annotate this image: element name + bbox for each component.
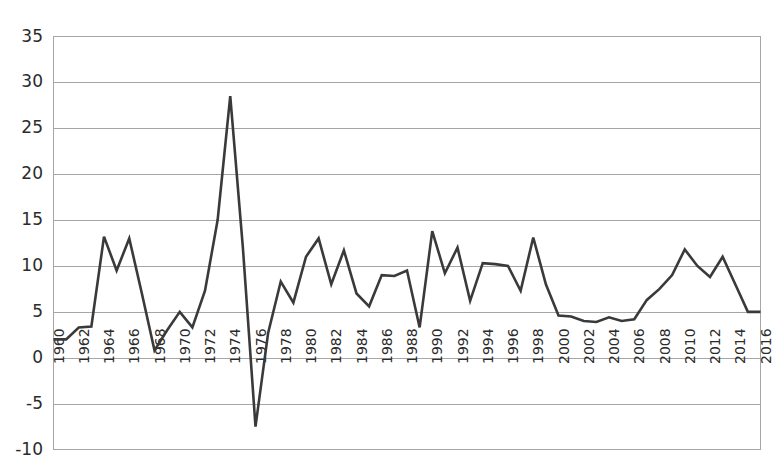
x-tick-label: 1962 xyxy=(76,328,92,364)
chart-background xyxy=(0,0,782,469)
x-tick-label: 1980 xyxy=(303,328,319,364)
y-tick-label: 15 xyxy=(21,209,43,229)
y-tick-label: 25 xyxy=(21,117,43,137)
x-tick-label: 2002 xyxy=(581,328,597,364)
x-tick-label: 2012 xyxy=(707,328,723,364)
x-tick-label: 1994 xyxy=(480,328,496,364)
x-tick-label: 1964 xyxy=(101,328,117,364)
x-tick-label: 1972 xyxy=(202,328,218,364)
chart-container: 35302520151050-5-10 19601962196419661968… xyxy=(0,0,782,469)
x-tick-label: 1984 xyxy=(354,328,370,364)
x-tick-label: 2016 xyxy=(758,328,774,364)
y-tick-label: -10 xyxy=(15,439,43,459)
x-tick-label: 2010 xyxy=(682,328,698,364)
x-tick-label: 2014 xyxy=(732,328,748,364)
x-tick-label: 1974 xyxy=(227,328,243,364)
x-tick-label: 2008 xyxy=(657,328,673,364)
y-tick-label: 10 xyxy=(21,255,43,275)
x-tick-label: 1988 xyxy=(404,328,420,364)
x-tick-label: 1990 xyxy=(429,328,445,364)
x-tick-label: 1996 xyxy=(505,328,521,364)
x-tick-label: 1960 xyxy=(51,328,67,364)
x-tick-label: 1986 xyxy=(379,328,395,364)
x-tick-label: 1982 xyxy=(328,328,344,364)
x-tick-label: 1970 xyxy=(177,328,193,364)
x-tick-label: 2004 xyxy=(606,328,622,364)
y-tick-label: 20 xyxy=(21,163,43,183)
x-tick-label: 1992 xyxy=(455,328,471,364)
y-tick-label: 35 xyxy=(21,26,43,46)
x-tick-label: 2006 xyxy=(631,328,647,364)
x-tick-label: 2000 xyxy=(556,328,572,364)
y-tick-label: 0 xyxy=(32,347,43,367)
y-tick-label: -5 xyxy=(26,393,43,413)
y-tick-label: 30 xyxy=(21,71,43,91)
y-tick-label: 5 xyxy=(32,301,43,321)
x-tick-label: 1998 xyxy=(530,328,546,364)
line-chart: 35302520151050-5-10 19601962196419661968… xyxy=(0,0,782,469)
x-tick-label: 1966 xyxy=(126,328,142,364)
x-axis-tick-labels: 1960196219641966196819701972197419761978… xyxy=(51,328,774,364)
x-tick-label: 1978 xyxy=(278,328,294,364)
